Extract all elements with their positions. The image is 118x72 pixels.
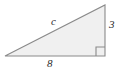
hypotenuse-label: c (51, 16, 56, 27)
triangle-shape (5, 5, 105, 56)
base-length-label: 8 (47, 58, 53, 69)
triangle-graphic (0, 0, 118, 72)
height-length-label: 3 (109, 19, 115, 30)
right-triangle-figure: c 8 3 (0, 0, 118, 72)
